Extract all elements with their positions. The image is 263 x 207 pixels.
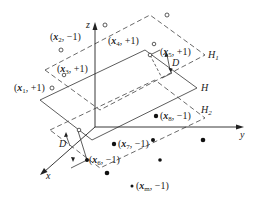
point-lower-left (105, 171, 110, 176)
point-origin-sv (77, 128, 81, 132)
label-x1: (x1, +1) (14, 82, 45, 95)
z-axis-arrow-icon (93, 22, 98, 30)
label-x7: (x7, −1) (118, 138, 149, 151)
point-top (103, 23, 107, 27)
point-x1 (50, 86, 54, 90)
point-x5 (152, 42, 156, 46)
svm-diagram: z y x H1 H H2 D D (0, 0, 263, 207)
label-x8: (x8, −1) (160, 110, 191, 123)
label-x4: (x4, +1) (108, 35, 139, 48)
negative-points (85, 114, 205, 188)
label-x6: (x6, −1) (89, 154, 120, 167)
point-xm (131, 185, 134, 188)
axes (40, 22, 244, 175)
plane-h1-label: H1 (207, 49, 219, 62)
point-x2 (59, 48, 63, 52)
point-x4 (148, 53, 152, 57)
margin-d-upper: D (171, 57, 180, 68)
y-axis-label: y (239, 129, 245, 140)
plane-h2-label: H2 (200, 104, 212, 117)
margin-lower: D (58, 131, 87, 168)
point-upper-right (165, 13, 169, 17)
point-x7 (112, 142, 116, 146)
label-x2: (x2, −1) (50, 31, 81, 44)
point-right (201, 138, 206, 143)
point-low (158, 158, 162, 162)
label-xm: (xm, −1) (136, 180, 169, 193)
arrow-down-icon (169, 68, 173, 73)
x-axis-label: x (45, 170, 51, 181)
margin-d-lower: D (58, 138, 67, 149)
x-axis (44, 127, 95, 172)
z-axis-label: z (85, 19, 90, 30)
point-x8 (154, 114, 158, 118)
plane-h2 (50, 80, 205, 168)
label-x3: (x3, +1) (57, 63, 88, 76)
point-mid (151, 138, 155, 142)
plane-h-label: H (200, 82, 209, 93)
